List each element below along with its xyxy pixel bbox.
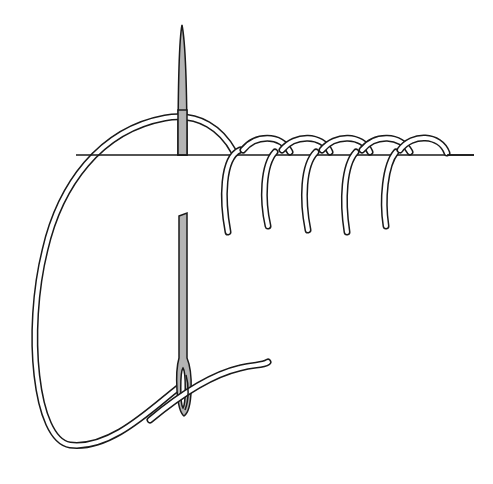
stitch-1: [224, 150, 240, 232]
stitch-2: [264, 152, 275, 226]
stitch-5: [384, 152, 396, 226]
needle-eye-icon: [181, 368, 186, 408]
needle-upper-overlap: [178, 110, 187, 155]
thread-tail: [150, 362, 268, 420]
stitch-3: [304, 152, 316, 230]
stitch-row: [224, 138, 447, 232]
stitch-4: [344, 152, 356, 232]
needle-lower: [177, 213, 191, 416]
blanket-stitch-illustration: blanket stitch with needle and thread: [0, 0, 493, 484]
stitch-diagram-svg: [0, 0, 493, 484]
thread-main-loop: [35, 117, 234, 446]
